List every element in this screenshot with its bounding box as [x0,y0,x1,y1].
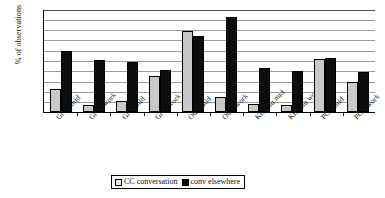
bar-cc-conversation [314,59,325,112]
x-tick-mark [243,112,244,116]
x-tick-mark [210,112,211,116]
bar-conv-elsewhere [325,58,336,112]
bar-conv-elsewhere [193,36,204,112]
x-tick-mark [310,112,311,116]
bar-conv-elsewhere [259,68,270,112]
chart-legend: CC conversation conv elsewhere [111,175,245,189]
legend-label-1: conv elsewhere [191,177,241,187]
legend-item-0: CC conversation [115,177,178,187]
bar-conv-elsewhere [160,70,171,112]
bar-chart: % of observations 02468101214161820 Gr W… [0,0,385,198]
bar-conv-elsewhere [226,17,237,112]
bar-conv-elsewhere [292,71,303,112]
y-axis-title: % of observations [14,0,23,80]
x-axis-labels: Gr W midGr W workGr B midGr B workOulu m… [43,115,375,171]
light-gray-square-icon [115,179,122,186]
bar-cc-conversation [347,82,358,112]
bar-cc-conversation [50,89,61,112]
bar-conv-elsewhere [127,62,138,112]
x-tick-mark [110,112,111,116]
bar-conv-elsewhere [358,72,369,112]
x-tick-mark [276,112,277,116]
x-tick-mark [177,112,178,116]
x-tick-mark [144,112,145,116]
bar-cc-conversation [248,104,259,112]
bar-cc-conversation [83,105,94,112]
black-square-icon [182,179,189,186]
bar-cc-conversation [182,31,193,112]
bar-cc-conversation [149,76,160,112]
bar-conv-elsewhere [94,60,105,112]
legend-label-0: CC conversation [124,177,178,187]
bar-conv-elsewhere [61,51,72,112]
legend-item-1: conv elsewhere [182,177,241,187]
bar-cc-conversation [215,97,226,112]
x-tick-mark [77,112,78,116]
bar-cc-conversation [116,101,127,112]
bar-cc-conversation [281,105,292,112]
x-tick-mark [343,112,344,116]
